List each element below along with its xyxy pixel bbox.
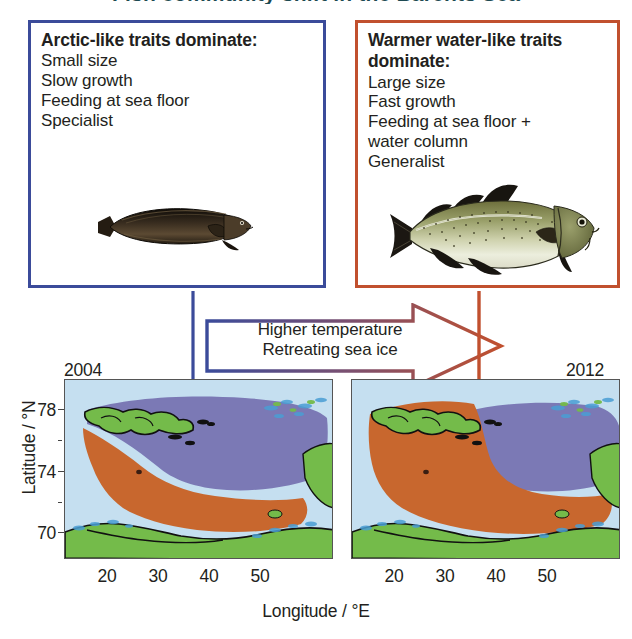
right-block-arrow-icon — [205, 303, 505, 389]
warm-traits-heading-line2: dominate: — [368, 51, 617, 71]
x-tick-left-40: 40 — [196, 566, 222, 587]
y-tick-74: 74 — [30, 462, 56, 483]
y-axis-label: Latitude / °N — [19, 368, 40, 528]
map-2004-svg — [65, 380, 333, 559]
figure-root: Fish community shift in the Barents Sea … — [0, 0, 632, 639]
x-tick-left-20: 20 — [94, 566, 120, 587]
page-title: Fish community shift in the Barents Sea — [0, 0, 632, 4]
y-tick-70: 70 — [30, 523, 56, 544]
arctic-traits-list: Small size Slow growth Feeding at sea fl… — [41, 51, 323, 131]
list-item: Feeding at sea floor — [41, 91, 323, 111]
warm-traits-heading-line1: Warmer water-like traits — [368, 30, 617, 50]
y-tickmark-minor-2 — [58, 502, 62, 503]
map-2012-svg — [352, 380, 620, 559]
x-tick-right-30: 30 — [432, 566, 458, 587]
arctic-eelpout-fish-icon — [96, 196, 256, 258]
x-tick-left-30: 30 — [145, 566, 171, 587]
y-tickmark-74 — [58, 471, 64, 472]
map-year-2004: 2004 — [64, 360, 102, 381]
list-item: Fast growth — [368, 92, 617, 112]
list-item: Small size — [41, 51, 323, 71]
x-tick-right-50: 50 — [534, 566, 560, 587]
y-tickmark-minor-1 — [58, 440, 62, 441]
y-tickmark-70 — [58, 532, 64, 533]
list-item: Large size — [368, 73, 617, 93]
x-axis-label: Longitude / °E — [0, 601, 632, 622]
arctic-traits-heading: Arctic-like traits dominate: — [41, 30, 323, 50]
list-item: water column — [368, 132, 617, 152]
x-tick-right-20: 20 — [381, 566, 407, 587]
warm-traits-list: Large size Fast growth Feeding at sea fl… — [368, 73, 617, 172]
figure-title-clipped: Fish community shift in the Barents Sea — [0, 0, 632, 4]
list-item: Slow growth — [41, 71, 323, 91]
list-item: Generalist — [368, 152, 617, 172]
x-tick-left-50: 50 — [247, 566, 273, 587]
y-tickmark-78 — [58, 409, 64, 410]
list-item: Specialist — [41, 111, 323, 131]
map-panel-2012 — [351, 379, 620, 559]
list-item: Feeding at sea floor + — [368, 112, 617, 132]
map-panel-2004 — [64, 379, 333, 559]
y-tick-78: 78 — [30, 400, 56, 421]
map-year-2012: 2012 — [566, 360, 604, 381]
x-tick-right-40: 40 — [483, 566, 509, 587]
atlantic-cod-fish-icon — [386, 172, 600, 288]
